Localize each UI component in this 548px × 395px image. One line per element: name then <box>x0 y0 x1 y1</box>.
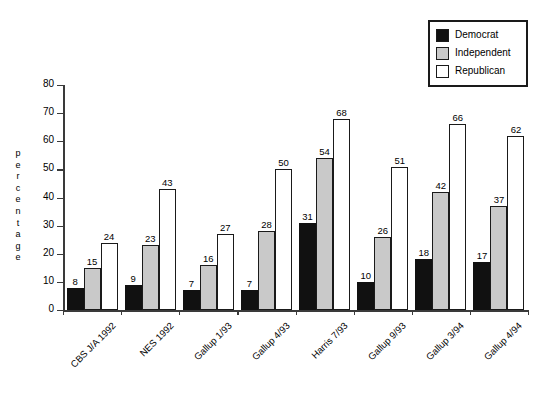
bar-value-label: 9 <box>131 273 136 284</box>
y-axis-title-letter: r <box>12 171 24 183</box>
bar-value-label: 16 <box>203 253 214 264</box>
legend-swatch-icon <box>436 29 449 42</box>
chart-legend: DemocratIndependentRepublican <box>428 20 528 87</box>
bar-independent: 26 <box>374 237 391 310</box>
x-axis-tick <box>412 310 413 315</box>
bar-value-label: 43 <box>162 177 173 188</box>
x-axis-tick <box>354 310 355 315</box>
legend-item-label: Republican <box>455 65 505 77</box>
bar-republican: 51 <box>391 167 408 310</box>
y-axis-title-letter: a <box>12 229 24 241</box>
x-axis-label: Gallup 4/94 <box>482 320 524 362</box>
bar-value-label: 18 <box>419 247 430 258</box>
bar-value-label: 28 <box>261 219 272 230</box>
bar-democrat: 31 <box>299 223 316 310</box>
bar-democrat: 7 <box>183 290 200 310</box>
bar-democrat: 10 <box>357 282 374 310</box>
y-axis-tick <box>57 282 63 283</box>
bar-value-label: 26 <box>377 225 388 236</box>
x-axis-label: Gallup 1/93 <box>191 320 233 362</box>
bar-republican: 24 <box>101 243 118 311</box>
legend-item-independent: Independent <box>436 45 520 61</box>
bar-republican: 27 <box>217 234 234 310</box>
bar-value-label: 62 <box>511 124 522 135</box>
x-axis-tick <box>470 310 471 315</box>
y-axis-tick-label: 30 <box>43 219 54 231</box>
y-axis-tick <box>57 254 63 255</box>
y-axis-title-letter: g <box>12 241 24 253</box>
bar-independent: 42 <box>432 192 449 310</box>
x-axis-label: Gallup 3/94 <box>424 320 466 362</box>
bar-independent: 28 <box>258 231 275 310</box>
y-axis-title-letter: p <box>12 148 24 160</box>
bar-value-label: 27 <box>220 222 231 233</box>
x-axis-tick <box>237 310 238 315</box>
legend-item-democrat: Democrat <box>436 27 520 43</box>
legend-item-republican: Republican <box>436 63 520 79</box>
bar-value-label: 24 <box>104 231 115 242</box>
y-axis-title-letter: t <box>12 218 24 230</box>
y-axis-title-letter: e <box>12 160 24 172</box>
x-axis-label: CBS J/A 1992 <box>68 320 118 370</box>
bar-democrat: 9 <box>125 285 142 310</box>
legend-item-label: Democrat <box>455 29 498 41</box>
bar-republican: 66 <box>449 124 466 310</box>
bar-value-label: 10 <box>360 270 371 281</box>
bar-independent: 23 <box>142 245 159 310</box>
y-axis-tick-label: 0 <box>48 303 54 315</box>
plot-area: 01020304050607080 8152492343716277285031… <box>63 85 528 310</box>
y-axis-tick-label: 80 <box>43 78 54 90</box>
x-axis-tick <box>63 310 64 315</box>
y-axis-title-letter: e <box>12 194 24 206</box>
bar-value-label: 23 <box>145 233 156 244</box>
y-axis-tick-label: 40 <box>43 191 54 203</box>
bar-value-label: 50 <box>278 157 289 168</box>
bar-independent: 37 <box>490 206 507 310</box>
y-axis-tick-label: 50 <box>43 162 54 174</box>
bar-value-label: 68 <box>336 107 347 118</box>
y-axis-title-letter: c <box>12 183 24 195</box>
y-axis-line <box>63 85 65 310</box>
y-axis-title: percentage <box>12 148 24 264</box>
bar-democrat: 7 <box>241 290 258 310</box>
x-axis-tick <box>528 310 529 315</box>
x-axis-tick <box>121 310 122 315</box>
bar-value-label: 42 <box>436 180 447 191</box>
bar-value-label: 7 <box>189 278 194 289</box>
bar-democrat: 18 <box>415 259 432 310</box>
bar-value-label: 31 <box>302 211 313 222</box>
legend-item-label: Independent <box>455 47 511 59</box>
bar-independent: 15 <box>84 268 101 310</box>
y-axis-tick <box>57 198 63 199</box>
bar-value-label: 8 <box>72 276 77 287</box>
y-axis-title-letter: e <box>12 252 24 264</box>
bar-value-label: 66 <box>453 112 464 123</box>
y-axis-tick-label: 10 <box>43 275 54 287</box>
bar-value-label: 15 <box>87 256 98 267</box>
y-axis-tick-label: 20 <box>43 247 54 259</box>
x-axis-label: Gallup 9/93 <box>366 320 408 362</box>
bar-democrat: 8 <box>67 288 84 311</box>
bar-value-label: 37 <box>494 194 505 205</box>
bar-value-label: 51 <box>394 155 405 166</box>
y-axis-tick-label: 70 <box>43 106 54 118</box>
x-axis-tick <box>179 310 180 315</box>
bar-republican: 43 <box>159 189 176 310</box>
bar-chart: percentage DemocratIndependentRepublican… <box>0 0 548 395</box>
y-axis-tick <box>57 113 63 114</box>
bar-republican: 62 <box>507 136 524 310</box>
bar-value-label: 54 <box>319 146 330 157</box>
bar-republican: 50 <box>275 169 292 310</box>
bar-value-label: 17 <box>477 250 488 261</box>
y-axis-tick <box>57 85 63 86</box>
bar-republican: 68 <box>333 119 350 310</box>
x-axis-tick <box>296 310 297 315</box>
y-axis-title-letter: n <box>12 206 24 218</box>
y-axis-tick <box>57 169 63 170</box>
y-axis-tick <box>57 226 63 227</box>
legend-swatch-icon <box>436 47 449 60</box>
x-axis-label: Gallup 4/93 <box>250 320 292 362</box>
bar-independent: 16 <box>200 265 217 310</box>
bar-independent: 54 <box>316 158 333 310</box>
bar-value-label: 7 <box>247 278 252 289</box>
